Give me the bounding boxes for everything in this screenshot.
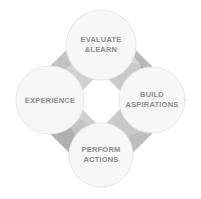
node-experience[interactable]: EXPERIENCE bbox=[16, 66, 84, 134]
node-build-aspirations[interactable]: BUILD ASPIRATIONS bbox=[119, 67, 185, 133]
node-perform-actions[interactable]: PERFORM ACTIONS bbox=[69, 123, 133, 187]
node-label-build-aspirations-line2: ASPIRATIONS bbox=[126, 100, 179, 109]
node-label-build-aspirations-line1: BUILD bbox=[140, 90, 164, 99]
node-label-evaluate-learn-line2: &LEARN bbox=[85, 45, 117, 54]
node-label-experience-line1: EXPERIENCE bbox=[25, 96, 75, 105]
diagram-root: EVALUATE &LEARN BUILD ASPIRATIONS PERFOR… bbox=[0, 0, 201, 199]
node-label-perform-actions-line2: ACTIONS bbox=[83, 155, 118, 164]
cycle-diagram: EVALUATE &LEARN BUILD ASPIRATIONS PERFOR… bbox=[0, 0, 201, 199]
node-label-evaluate-learn-line1: EVALUATE bbox=[81, 35, 122, 44]
node-label-perform-actions-line1: PERFORM bbox=[82, 145, 121, 154]
node-evaluate-learn[interactable]: EVALUATE &LEARN bbox=[66, 10, 136, 80]
